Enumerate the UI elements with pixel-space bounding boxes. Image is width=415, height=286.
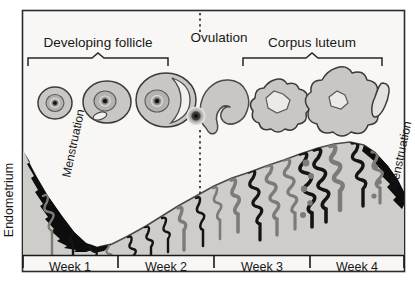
week-label-1: Week 1: [49, 260, 91, 274]
heading-developing-follicle: Developing follicle: [44, 35, 153, 50]
menstrual-cycle-figure: Week 1 Week 2 Week 3 Week 4: [0, 0, 415, 286]
heading-ovulation: Ovulation: [190, 30, 247, 45]
primordial-follicle: [38, 87, 72, 119]
released-ovum: [187, 107, 206, 126]
week-label-3: Week 3: [241, 260, 283, 274]
primary-follicle: [83, 81, 131, 123]
axis-label-endometrium: Endometrium: [2, 163, 16, 237]
heading-corpus-luteum: Corpus luteum: [268, 35, 356, 50]
week-label-2: Week 2: [145, 260, 187, 274]
week-label-4: Week 4: [336, 260, 378, 274]
